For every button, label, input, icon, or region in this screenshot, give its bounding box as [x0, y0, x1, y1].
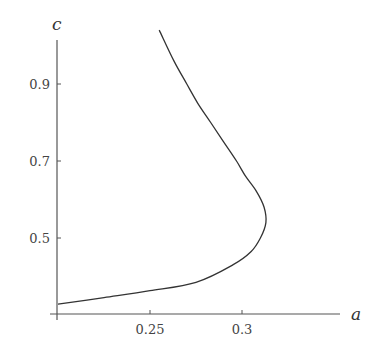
phase-curve-chart: 0.50.70.9 0.250.3 c a [0, 0, 381, 353]
y-axis-label: c [52, 14, 62, 34]
y-ticks: 0.50.70.9 [29, 77, 61, 246]
x-tick-label: 0.25 [136, 322, 165, 337]
axes: 0.50.70.9 0.250.3 c a [29, 14, 361, 337]
cut-off-caption [0, 343, 381, 353]
y-tick-label: 0.7 [29, 154, 50, 169]
x-tick-label: 0.3 [232, 322, 253, 337]
x-axis-label: a [351, 304, 361, 324]
curve-line [58, 30, 266, 304]
y-tick-label: 0.5 [29, 231, 50, 246]
y-tick-label: 0.9 [29, 77, 50, 92]
